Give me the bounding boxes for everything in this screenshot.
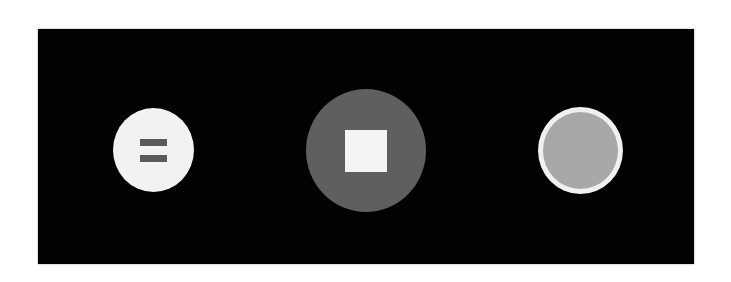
- stop-button[interactable]: [306, 89, 426, 212]
- pause-bar: [140, 139, 167, 146]
- record-button[interactable]: [538, 107, 623, 194]
- stop-icon: [345, 130, 387, 172]
- pause-bar: [140, 155, 167, 162]
- pause-icon: [140, 139, 167, 162]
- recording-controls-panel: [38, 29, 694, 264]
- pause-button[interactable]: [113, 108, 194, 192]
